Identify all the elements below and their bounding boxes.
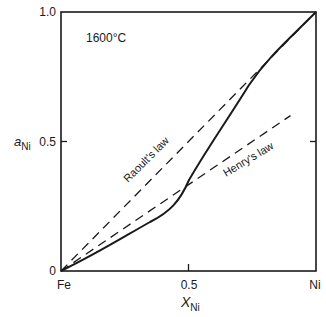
henrys-law-label: Henry's law [221, 139, 276, 178]
y-axis-title: aNi [14, 134, 31, 152]
henrys-law-line [61, 116, 291, 271]
activity-chart: 1.0 0.5 0 aNi Fe 0.5 Ni XNi 1600°C Raoul… [0, 0, 326, 317]
raoults-law-label: Raoult's law [121, 134, 171, 184]
x-tick-label-0.5: 0.5 [181, 278, 198, 292]
y-tick-label-0.5: 0.5 [39, 135, 56, 149]
temperature-annotation: 1600°C [86, 31, 126, 45]
x-tick-label-ni: Ni [309, 278, 320, 292]
x-tick-label-fe: Fe [57, 278, 71, 292]
y-tick-label-0: 0 [49, 264, 56, 278]
y-tick-label-1: 1.0 [39, 5, 56, 19]
x-axis-title: XNi [180, 294, 200, 313]
